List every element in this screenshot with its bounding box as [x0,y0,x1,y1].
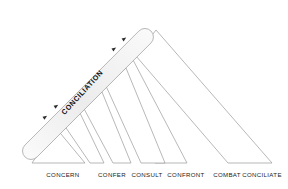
stage-labels: CONCERN CONFER CONSULT CONFRONT COMBAT C… [46,171,281,178]
arrow-head-3 [112,48,117,52]
stage-label-concern: CONCERN [46,171,79,178]
conciliation-diagram: CONCILIATION CONCERN CONFER CONSULT CONF… [0,0,288,189]
stage-label-confer: CONFER [98,171,126,178]
arrow-head-1 [43,116,48,120]
stage-label-consult: CONSULT [131,171,162,178]
diagram-canvas: CONCILIATION CONCERN CONFER CONSULT CONF… [0,0,288,189]
stage-label-combat: COMBAT [213,171,241,178]
stage-label-conciliate: CONCILIATE [242,171,282,178]
arrow-head-4 [122,38,127,42]
stage-label-confront: CONFRONT [167,171,204,178]
arrow-head-2 [54,105,59,109]
